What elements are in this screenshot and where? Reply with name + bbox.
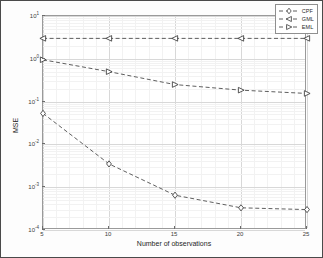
- legend-item-eml: EML: [278, 23, 314, 31]
- y-tick-label: 10-3: [28, 182, 39, 190]
- x-tick-mark: [174, 226, 175, 229]
- legend-item-cpf: CPF: [278, 7, 314, 15]
- y-tick-label: 10-2: [28, 139, 39, 147]
- x-tick-label: 5: [40, 231, 43, 237]
- legend-marker-sample: [278, 7, 300, 15]
- plot-area: [42, 15, 306, 229]
- legend-item-gml: GML: [278, 15, 314, 23]
- legend-label: EML: [302, 23, 314, 31]
- y-tick-mark: [42, 229, 45, 230]
- data-point-marker: [239, 205, 244, 211]
- data-point-marker: [172, 36, 178, 42]
- x-tick-mark: [240, 226, 241, 229]
- series-gml: [40, 36, 310, 42]
- chart-figure: 10110010-110-210-310-4 510152025 Number …: [0, 0, 323, 258]
- x-tick-mark: [306, 226, 307, 229]
- data-point-marker: [40, 36, 46, 42]
- x-axis-label: Number of observations: [42, 240, 306, 247]
- x-tick-mark: [108, 226, 109, 229]
- y-tick-label: 101: [30, 11, 39, 19]
- data-point-marker: [238, 87, 244, 93]
- data-point-marker: [173, 192, 178, 198]
- data-point-marker: [238, 36, 244, 42]
- data-point-marker: [305, 206, 310, 212]
- y-tick-mark: [42, 101, 45, 102]
- data-point-marker: [304, 36, 310, 42]
- data-point-marker: [107, 161, 112, 167]
- y-tick-mark: [42, 15, 45, 16]
- data-series-layer: [43, 16, 307, 230]
- y-tick-label: 10-4: [28, 225, 39, 233]
- x-tick-mark: [42, 226, 43, 229]
- y-axis-label: MSE: [12, 96, 19, 156]
- data-point-marker: [106, 69, 112, 75]
- data-point-marker: [41, 110, 46, 116]
- data-point-marker: [172, 82, 178, 88]
- legend-label: GML: [302, 15, 314, 23]
- x-tick-label: 25: [303, 231, 310, 237]
- x-tick-label: 10: [105, 231, 112, 237]
- x-tick-label: 15: [171, 231, 178, 237]
- y-tick-mark: [42, 58, 45, 59]
- legend-marker-sample: [278, 23, 300, 31]
- chart-legend: CPFGMLEML: [275, 4, 318, 34]
- y-tick-mark: [42, 143, 45, 144]
- x-tick-label: 20: [237, 231, 244, 237]
- y-tick-label: 10-1: [28, 97, 39, 105]
- y-axis-ticks: 10110010-110-210-310-4: [1, 1, 39, 258]
- data-point-marker: [106, 36, 112, 42]
- series-line: [43, 60, 307, 94]
- y-tick-label: 100: [30, 54, 39, 62]
- legend-marker-sample: [278, 15, 300, 23]
- legend-label: CPF: [302, 7, 313, 15]
- y-tick-mark: [42, 186, 45, 187]
- gridline-vertical: [307, 16, 308, 228]
- series-eml: [40, 57, 310, 96]
- series-cpf: [41, 110, 310, 212]
